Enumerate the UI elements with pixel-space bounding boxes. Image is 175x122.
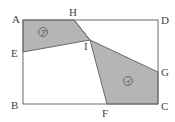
label-i: I — [84, 40, 88, 52]
label-g: G — [161, 66, 169, 78]
label-h: H — [69, 6, 77, 18]
geometry-diagram: A H D E I G B F C ア イ — [0, 0, 175, 122]
label-b: B — [11, 99, 18, 111]
shaded-region-a — [23, 20, 90, 52]
label-c: C — [161, 100, 168, 112]
label-f: F — [102, 107, 108, 119]
label-a: A — [12, 13, 20, 25]
region-i-label: イ — [125, 78, 132, 86]
region-a-label: ア — [40, 29, 47, 37]
label-e: E — [11, 47, 18, 59]
label-d: D — [161, 14, 169, 26]
shaded-region-i — [90, 40, 158, 104]
